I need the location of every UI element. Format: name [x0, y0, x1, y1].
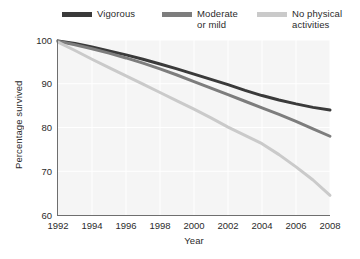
y-tick-label: 60: [16, 210, 52, 221]
legend-item-no-physical-activities: No physical activities: [257, 8, 342, 30]
y-tick-label: 100: [16, 35, 52, 46]
legend-label-moderate-or-mild: Moderate or mild: [197, 8, 238, 30]
data-lines: [58, 40, 330, 215]
x-axis-line: [57, 215, 330, 216]
legend-item-moderate-or-mild: Moderate or mild: [162, 8, 238, 30]
legend-label-vigorous: Vigorous: [97, 8, 135, 19]
legend-item-vigorous: Vigorous: [62, 8, 135, 19]
series-line-1: [58, 41, 330, 136]
y-tick-label: 90: [16, 78, 52, 89]
x-axis-title: Year: [58, 235, 330, 246]
x-tick-label: 2008: [310, 220, 350, 231]
y-axis-line: [57, 40, 58, 215]
legend-swatch-moderate-or-mild: [162, 12, 192, 17]
chart-legend: Vigorous Moderate or mild No physical ac…: [0, 0, 360, 36]
legend-swatch-no-physical-activities: [257, 12, 287, 17]
plot-area: 60708090100 1992199419961998200020022004…: [58, 40, 330, 215]
chart-figure: Vigorous Moderate or mild No physical ac…: [0, 0, 360, 259]
y-tick-label: 70: [16, 166, 52, 177]
legend-swatch-vigorous: [62, 12, 92, 17]
y-tick-label: 80: [16, 122, 52, 133]
legend-label-no-physical-activities: No physical activities: [292, 8, 342, 30]
